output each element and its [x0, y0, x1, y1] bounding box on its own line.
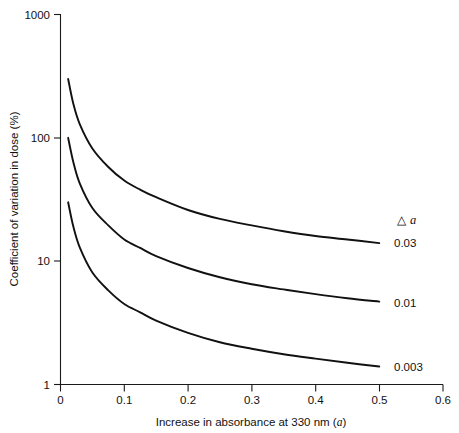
legend-label-1: 0.01 [394, 297, 416, 309]
legend-label-0: 0.03 [394, 237, 416, 249]
x-axis-title-prefix: Increase in absorbance at 330 nm ( [156, 416, 337, 428]
x-tick-label-0.5: 0.5 [372, 394, 388, 406]
legend: △a 0.03 0.01 0.003 [394, 213, 423, 373]
axes-frame [60, 14, 443, 385]
chart-page: 1000 100 10 1 0 0.1 0.2 0.3 0.4 0.5 0.6 … [0, 0, 459, 433]
legend-title: △a [397, 213, 416, 227]
y-tick-label-1: 1 [44, 379, 50, 391]
series-line-0.003 [68, 202, 379, 366]
y-axis-ticks [54, 15, 61, 385]
x-axis-ticks [61, 385, 444, 392]
x-tick-label-0: 0 [57, 394, 63, 406]
x-tick-label-0.4: 0.4 [308, 394, 325, 406]
y-axis-tick-labels: 1000 100 10 1 [24, 9, 50, 391]
y-tick-label-1000: 1000 [24, 9, 50, 21]
x-tick-label-0.3: 0.3 [244, 394, 260, 406]
series-line-0.03 [68, 79, 379, 243]
delta-icon: △ [397, 213, 407, 227]
x-axis-title: Increase in absorbance at 330 nm (a) [156, 416, 347, 428]
y-tick-label-10: 10 [37, 255, 50, 267]
line-chart: 1000 100 10 1 0 0.1 0.2 0.3 0.4 0.5 0.6 … [0, 0, 459, 433]
legend-label-2: 0.003 [394, 361, 423, 373]
y-axis-title: Coefficient of variation in dose (%) [8, 111, 20, 286]
y-tick-label-100: 100 [31, 132, 50, 144]
data-series-group [68, 79, 379, 366]
x-tick-label-0.6: 0.6 [435, 394, 451, 406]
legend-title-variable: a [410, 213, 416, 227]
x-tick-label-0.2: 0.2 [180, 394, 196, 406]
x-tick-label-0.1: 0.1 [116, 394, 132, 406]
x-axis-tick-labels: 0 0.1 0.2 0.3 0.4 0.5 0.6 [57, 394, 451, 406]
x-axis-title-suffix: ) [342, 416, 346, 428]
